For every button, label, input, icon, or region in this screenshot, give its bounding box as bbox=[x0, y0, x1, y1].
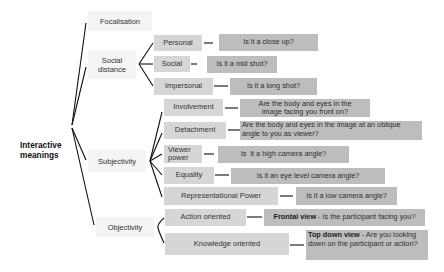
question-action-oriented: Frontal view - Is the participant facing… bbox=[264, 209, 425, 226]
sub-action-oriented: Action oriented bbox=[165, 209, 246, 226]
question-text: Top down view - Are you looking down on … bbox=[308, 231, 426, 248]
root-label-line2: meanings bbox=[20, 150, 62, 160]
question-text: Is it a low camera angle? bbox=[306, 192, 387, 201]
sub-label: Involvement bbox=[173, 103, 213, 112]
sub-label: Social bbox=[162, 60, 182, 69]
question-involvement: Are the body and eyes in the image facin… bbox=[240, 99, 370, 117]
sub-impersonal: Impersonal bbox=[154, 78, 213, 95]
sub-representational-power: Representational Power bbox=[164, 187, 278, 205]
question-knowledge-oriented: Top down view - Are you looking down on … bbox=[306, 230, 428, 260]
sub-knowledge-oriented: Knowledge oriented bbox=[165, 233, 289, 255]
root-label: Interactive meanings bbox=[20, 140, 62, 160]
question-impersonal: Is it a long shot? bbox=[230, 78, 317, 95]
question-text: Frontal view - Is the participant facing… bbox=[274, 213, 416, 222]
category-subjectivity: Subjectivity bbox=[88, 150, 146, 172]
category-label: Focalisation bbox=[100, 17, 140, 26]
question-viewer-power: Is it a high camera angle? bbox=[218, 146, 349, 163]
sub-personal: Personal bbox=[154, 35, 202, 51]
question-text: Is it a high camera angle? bbox=[241, 150, 327, 159]
question-personal: Is it a close up? bbox=[219, 34, 318, 51]
question-social: Is it a mid shot? bbox=[207, 56, 277, 73]
question-representational-power: Is it a low camera angle? bbox=[296, 187, 397, 205]
category-focalisation: Focalisation bbox=[88, 11, 152, 31]
sub-label: Knowledge oriented bbox=[194, 240, 260, 249]
sub-label: Detachment bbox=[175, 126, 215, 135]
question-text: Is it a close up? bbox=[243, 38, 294, 47]
sub-label: Equality bbox=[176, 171, 203, 180]
root-label-line1: Interactive bbox=[20, 140, 62, 150]
question-rest: - Is the participant facing you? bbox=[316, 212, 415, 221]
sub-label: Representational Power bbox=[181, 192, 261, 201]
question-detachment: Are the body and eyes in the image at an… bbox=[240, 121, 422, 140]
question-text: Is it an eye level camera angle? bbox=[257, 172, 360, 181]
question-text: Is it a mid shot? bbox=[216, 60, 267, 69]
question-bold: Frontal view bbox=[274, 212, 317, 221]
category-label: Objectivity bbox=[108, 223, 143, 232]
category-social-distance: Social distance bbox=[88, 50, 136, 79]
category-label: Subjectivity bbox=[98, 157, 136, 166]
sub-detachment: Detachment bbox=[164, 122, 226, 139]
question-text: Is it a long shot? bbox=[247, 82, 300, 91]
category-label-line2: distance bbox=[98, 65, 126, 74]
question-equality: Is it an eye level camera angle? bbox=[231, 168, 385, 184]
sub-label: Personal bbox=[163, 39, 193, 48]
question-text-line2: image facing you front on? bbox=[262, 108, 348, 117]
sub-involvement: Involvement bbox=[164, 99, 223, 116]
sub-label: Action oriented bbox=[180, 213, 230, 222]
sub-label-line2: power bbox=[168, 154, 188, 163]
category-objectivity: Objectivity bbox=[96, 217, 154, 237]
question-text-line2: angle to you as viewer? bbox=[242, 130, 319, 139]
sub-viewer-power: Viewer power bbox=[164, 145, 202, 163]
category-label-line1: Social bbox=[102, 56, 122, 65]
sub-label: Impersonal bbox=[165, 82, 202, 91]
sub-social: Social bbox=[154, 56, 190, 72]
sub-equality: Equality bbox=[164, 167, 214, 184]
